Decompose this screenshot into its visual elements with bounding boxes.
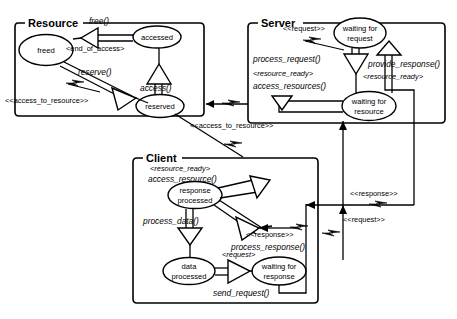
arrowhead-access-resource: [250, 176, 270, 198]
label-resource-ready-right: <resource_ready>: [363, 72, 424, 81]
label-provide-response: provide_response(): [367, 59, 440, 69]
state-waiting-for-response-label-1: waiting for: [261, 262, 297, 271]
state-waiting-for-resource-label-2: resource: [354, 107, 384, 116]
label-access-to-resource-1: <<access_to_resource>>: [5, 96, 88, 105]
link-response: <<response>>: [306, 121, 414, 209]
package-resource-title: Resource: [28, 17, 78, 29]
state-response-processed[interactable]: response processed: [168, 182, 222, 209]
arrowhead-access-to-resource-left: [206, 100, 214, 108]
state-waiting-for-response-label-2: response: [263, 272, 294, 281]
link-request: <<request>>: [322, 205, 385, 260]
label-reserve: reserve(): [78, 67, 112, 77]
arrowhead-process-request: [344, 54, 368, 74]
label-response-client: <<response>>: [246, 230, 294, 239]
label-request-server: <<request>>: [283, 24, 325, 33]
signal-bolt-access-to-resource-2: [222, 100, 240, 106]
link-access-to-resource: <<access_to_resource>>: [175, 100, 273, 157]
arrowhead-access-resources: [272, 96, 292, 110]
signal-bolt-response-link: [369, 201, 387, 207]
transition-reserved-to-accessed: access(): [140, 48, 172, 95]
arrowhead-request-link: [339, 205, 347, 214]
state-waiting-for-request-label-2: request: [347, 34, 373, 43]
state-reserved-label: reserved: [145, 102, 175, 111]
label-access-to-resource-2: <<access_to_resource>>: [190, 121, 273, 130]
state-accessed[interactable]: accessed: [133, 26, 181, 48]
state-data-processed-label-2: processed: [171, 272, 206, 281]
label-access-resource: access_resource(): [148, 174, 217, 184]
state-waiting-for-request-label-1: waiting for: [342, 24, 378, 33]
state-reserved[interactable]: reserved: [136, 95, 184, 118]
state-data-processed[interactable]: data processed: [163, 258, 215, 285]
label-process-data: process_data(): [142, 216, 199, 226]
arrowhead-send-request: [228, 260, 250, 283]
label-resource-ready-client: <resource_ready>: [150, 164, 211, 173]
label-resource-ready-server: <resource_ready>: [253, 69, 314, 78]
state-waiting-for-resource-label-1: waiting for: [351, 97, 387, 106]
label-access: access(): [140, 83, 172, 93]
state-waiting-for-request-shape[interactable]: [334, 18, 386, 48]
diagram-canvas: Resource freed accessed reserved free() …: [0, 0, 457, 319]
signal-bolt-request-server: [303, 37, 321, 43]
label-response-link: <<response>>: [350, 189, 398, 198]
state-freed-label: freed: [37, 46, 54, 55]
state-waiting-for-response[interactable]: waiting for response: [252, 257, 306, 285]
label-end-of-access: <end_of_access>: [66, 44, 124, 53]
label-request-link: <<request>>: [343, 215, 385, 224]
signal-bolt-access-to-resource-1: [66, 80, 84, 86]
signal-bolt-request-link: [322, 230, 340, 236]
state-waiting-for-resource[interactable]: waiting for resource: [342, 92, 396, 121]
state-accessed-label: accessed: [141, 33, 173, 42]
arrowhead-process-data: [178, 228, 202, 245]
label-send-request: send_request(): [213, 288, 270, 298]
label-process-request: process_request(): [252, 54, 321, 64]
label-request-client: <request>: [222, 250, 256, 259]
label-free: free(): [89, 16, 109, 26]
transition-processed-to-data: process_data(): [142, 209, 202, 258]
arrowhead-response-link: [306, 201, 315, 209]
label-access-resources: access_resources(): [253, 81, 326, 91]
state-diagram: Resource freed accessed reserved free() …: [0, 0, 457, 319]
transition-response-to-processed: <<response>> process_response(): [214, 200, 308, 252]
transition-freed-to-reserved: reserve() <<access_to_resource>>: [5, 62, 148, 110]
state-response-processed-label-1: response: [179, 186, 210, 195]
state-waiting-for-resource-shape[interactable]: [342, 92, 396, 121]
state-data-processed-label-1: data: [182, 262, 198, 271]
package-client-title: Client: [146, 152, 177, 164]
transition-server-access-resources: <resource_ready> access_resources(): [253, 69, 343, 112]
state-response-processed-label-2: processed: [177, 196, 212, 205]
arrowhead-access: [147, 64, 171, 84]
state-freed[interactable]: freed: [19, 35, 73, 66]
arrowhead-provide-response: [377, 41, 401, 55]
state-waiting-for-request[interactable]: waiting for request: [334, 18, 386, 48]
